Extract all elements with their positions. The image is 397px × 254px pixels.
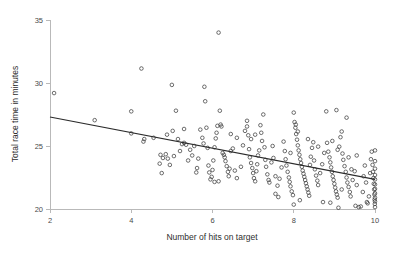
data-point [259, 123, 263, 127]
data-point [285, 164, 289, 168]
data-point [188, 148, 192, 152]
data-point [343, 164, 347, 168]
data-point [246, 133, 250, 137]
plot-area: 20253035246810 Number of hits on target … [0, 0, 397, 254]
data-point [168, 163, 172, 167]
data-point [195, 166, 199, 170]
data-point [316, 145, 320, 149]
data-point [299, 161, 303, 165]
data-point [243, 129, 247, 133]
data-point [160, 171, 164, 175]
data-point [202, 142, 206, 146]
data-point [373, 149, 377, 153]
x-tick-label: 4 [129, 216, 133, 225]
data-point [194, 171, 198, 175]
data-point [264, 165, 268, 169]
data-point [348, 190, 352, 194]
data-point [245, 125, 249, 129]
data-point [340, 188, 344, 192]
data-point [129, 110, 133, 114]
data-point [329, 166, 333, 170]
data-point [253, 133, 257, 137]
data-point [228, 167, 232, 171]
data-point [203, 85, 207, 89]
data-point [178, 149, 182, 153]
data-point [309, 155, 313, 159]
data-point [166, 157, 170, 161]
data-point [332, 178, 336, 182]
data-point [231, 147, 235, 151]
x-tick-label: 8 [292, 216, 296, 225]
data-point [199, 128, 203, 132]
data-point [205, 126, 209, 130]
data-point [371, 163, 375, 167]
data-point [251, 166, 255, 170]
data-point [335, 108, 339, 112]
axes-layer [46, 20, 375, 213]
data-point [321, 200, 325, 204]
data-point [341, 152, 345, 156]
data-point [164, 152, 168, 156]
data-points-layer [52, 31, 377, 210]
data-point [373, 159, 377, 163]
data-point [217, 179, 221, 183]
data-point [364, 181, 368, 185]
data-point [342, 158, 346, 162]
data-point [336, 148, 340, 152]
data-point [207, 171, 211, 175]
data-point [255, 169, 259, 173]
data-point [289, 151, 293, 155]
data-point [354, 204, 358, 208]
data-point [349, 195, 353, 199]
data-point [373, 167, 377, 171]
data-point [263, 145, 267, 149]
data-point [367, 195, 371, 199]
data-point [298, 157, 302, 161]
data-point [241, 144, 245, 148]
data-point [306, 137, 310, 141]
x-axis-title: Number of hits on target [166, 232, 258, 242]
data-point [224, 159, 228, 163]
data-point [176, 137, 180, 141]
data-point [290, 190, 294, 194]
data-point [310, 146, 314, 150]
data-point [333, 186, 337, 190]
data-point [292, 111, 296, 115]
data-point [218, 109, 222, 113]
data-point [351, 178, 355, 182]
tick-labels-layer: 20253035246810 [35, 16, 380, 225]
data-point [257, 149, 261, 153]
data-point [227, 174, 231, 178]
data-point [277, 195, 281, 199]
data-point [261, 113, 265, 117]
data-point [288, 180, 292, 184]
data-point [159, 153, 163, 157]
data-point [355, 154, 359, 158]
scatter-chart: 20253035246810 Number of hits on target … [0, 0, 397, 254]
data-point [172, 154, 176, 158]
data-point [235, 176, 239, 180]
data-point [249, 137, 253, 141]
data-point [346, 181, 350, 185]
data-point [207, 164, 211, 168]
data-point [296, 144, 300, 148]
data-point [329, 201, 333, 205]
data-point [214, 137, 218, 141]
data-point [93, 118, 97, 122]
data-point [276, 184, 280, 188]
data-point [328, 156, 332, 160]
data-point [345, 176, 349, 180]
data-point [174, 109, 178, 113]
data-point [331, 139, 335, 143]
data-point [297, 149, 301, 153]
regression-line [50, 117, 375, 179]
data-point [52, 91, 56, 95]
data-point [311, 140, 315, 144]
data-point [361, 190, 365, 194]
data-point [331, 174, 335, 178]
data-point [373, 191, 377, 195]
data-point [203, 99, 207, 103]
data-point [171, 129, 175, 133]
data-point [324, 110, 328, 114]
data-point [286, 170, 290, 174]
